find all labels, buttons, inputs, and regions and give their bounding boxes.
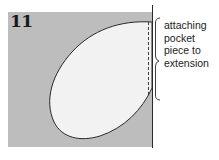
callout-line-3: piece to — [164, 44, 219, 57]
step-number: 11 — [10, 13, 33, 30]
callout-label: attaching pocket piece to extension — [164, 19, 219, 69]
bracket-icon — [155, 18, 160, 100]
callout-line-4: extension — [164, 57, 219, 70]
callout-line-1: attaching — [164, 19, 219, 32]
callout-line-2: pocket — [164, 32, 219, 45]
